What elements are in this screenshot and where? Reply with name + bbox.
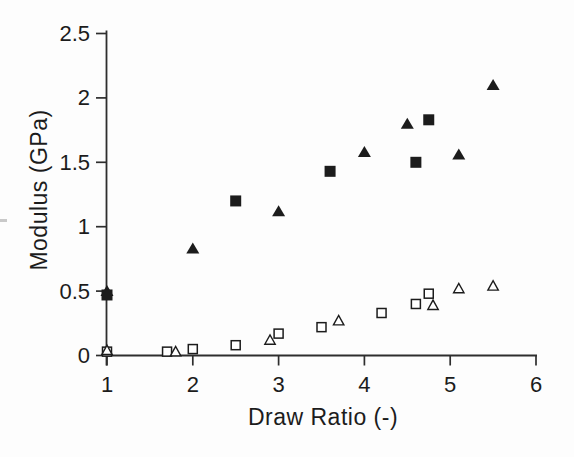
x-tick-label: 1	[101, 372, 113, 397]
filled-square-series-marker	[410, 157, 421, 168]
open-square-series-marker	[274, 329, 283, 338]
y-tick-label: 0	[78, 343, 90, 368]
scatter-figure: 00.511.522.5123456 Modulus (GPa) Draw Ra…	[0, 0, 574, 457]
x-tick-label: 2	[187, 372, 199, 397]
open-triangle-series-marker	[428, 300, 438, 309]
x-tick-label: 4	[358, 372, 370, 397]
open-square-series-marker	[317, 323, 326, 332]
open-square-series-marker	[231, 341, 240, 350]
y-axis-title: Modulus (GPa)	[26, 109, 53, 270]
open-square-series-marker	[188, 345, 197, 354]
filled-triangle-series-marker	[186, 243, 199, 254]
open-square-series-marker	[377, 308, 386, 317]
x-tick-label: 3	[272, 372, 284, 397]
open-square-series-marker	[424, 289, 433, 298]
open-triangle-series-marker	[488, 281, 498, 290]
y-tick-label: 2.5	[59, 21, 90, 46]
scan-artifact	[0, 219, 7, 222]
filled-square-series-marker	[230, 195, 241, 206]
open-triangle-series-marker	[333, 316, 343, 325]
filled-square-series-marker	[423, 114, 434, 125]
filled-triangle-series-marker	[452, 149, 465, 160]
filled-triangle-series-marker	[358, 146, 371, 157]
x-tick-label: 6	[530, 372, 542, 397]
scatter-plot: 00.511.522.5123456	[0, 0, 574, 457]
open-triangle-series-marker	[454, 283, 464, 292]
open-square-series-marker	[163, 347, 172, 356]
x-axis-title: Draw Ratio (-)	[248, 404, 398, 431]
y-tick-label: 0.5	[59, 279, 90, 304]
open-square-series-marker	[411, 299, 420, 308]
y-tick-label: 1	[78, 214, 90, 239]
filled-triangle-series-marker	[272, 205, 285, 216]
filled-triangle-series-marker	[487, 79, 500, 90]
x-tick-label: 5	[444, 372, 456, 397]
filled-square-series-marker	[325, 166, 336, 177]
filled-triangle-series-marker	[401, 118, 414, 129]
y-tick-label: 1.5	[59, 150, 90, 175]
y-tick-label: 2	[78, 85, 90, 110]
